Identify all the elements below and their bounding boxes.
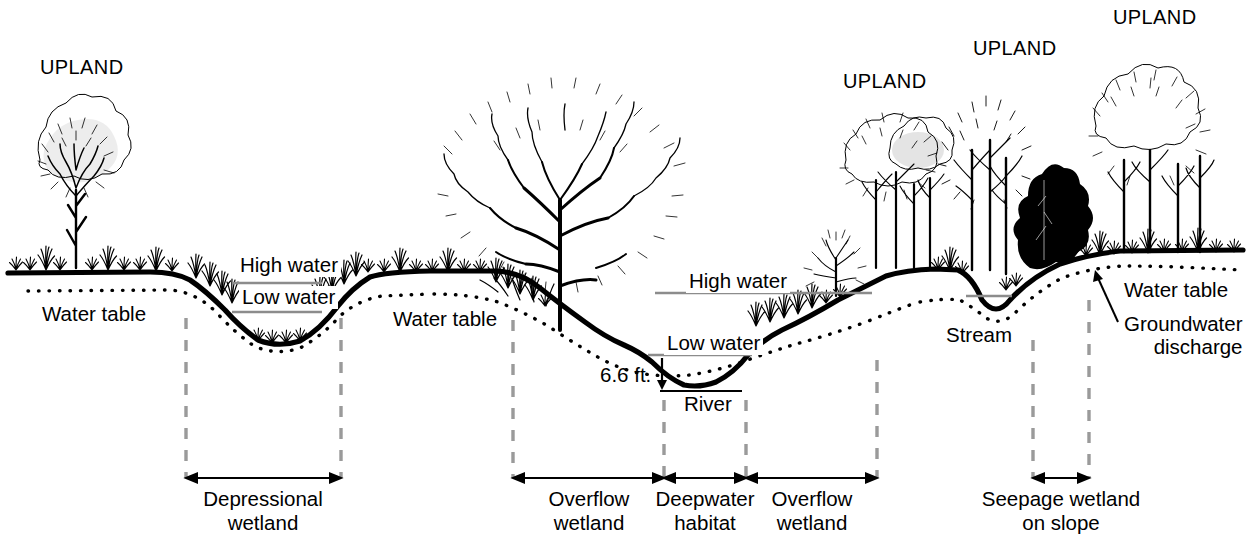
zone-span-arrows xyxy=(186,474,1089,483)
tree-icon-upland-cluster xyxy=(840,113,954,268)
double-headed-arrow-deepwater xyxy=(664,474,746,483)
zone-label-line-2: wetland xyxy=(163,511,363,535)
tree-icon-upland-left xyxy=(38,94,131,268)
zone-label-overflow-wetland-right: Overflow wetland xyxy=(742,487,882,535)
low-water-label-depression: Low water xyxy=(239,286,338,309)
low-water-label-river: Low water xyxy=(664,332,763,355)
tree-icon-upland-right xyxy=(1089,64,1214,252)
depth-label-6-6-ft: 6.6 ft. xyxy=(600,364,651,387)
zone-label-seepage-wetland-on-slope: Seepage wetland on slope xyxy=(941,487,1181,535)
groundwater-discharge-line-2: discharge xyxy=(1124,336,1243,359)
water-table-label-1: Water table xyxy=(42,303,146,326)
double-headed-arrow-depressional xyxy=(186,474,341,483)
zone-label-line-2: on slope xyxy=(941,511,1181,535)
upland-label-1: UPLAND xyxy=(40,56,124,78)
zone-label-line-1: Depressional xyxy=(163,487,363,511)
double-headed-arrow-overflow-right xyxy=(746,474,877,483)
upland-label-2: UPLAND xyxy=(843,70,927,92)
terrain-and-vegetation xyxy=(0,0,1251,556)
tree-icon-stream-bank xyxy=(938,96,1093,274)
high-water-label-river: High water xyxy=(686,270,790,293)
stream-label: Stream xyxy=(946,324,1012,347)
groundwater-discharge-line-1: Groundwater xyxy=(1124,313,1243,336)
double-headed-arrow-overflow-left xyxy=(513,474,664,483)
tree-icon-floodplain xyxy=(438,78,685,330)
groundwater-discharge-label: Groundwater discharge xyxy=(1124,313,1243,359)
grass-tuft-icon-left-upland xyxy=(10,246,179,271)
tree-icon-shrub-bank xyxy=(804,230,866,296)
zone-label-line-1: Seepage wetland xyxy=(941,487,1181,511)
groundwater-discharge-pointer-arrow xyxy=(1093,270,1118,322)
river-label: River xyxy=(684,393,732,416)
double-headed-arrow-seepage xyxy=(1033,474,1089,483)
zone-label-depressional-wetland: Depressional wetland xyxy=(163,487,363,535)
high-water-label-depression: High water xyxy=(237,254,341,277)
diagram-canvas: UPLAND UPLAND UPLAND UPLAND Water table … xyxy=(0,0,1251,556)
upland-label-3: UPLAND xyxy=(973,37,1057,59)
zone-label-line-1: Overflow xyxy=(742,487,882,511)
upland-label-4: UPLAND xyxy=(1113,6,1197,28)
zone-label-line-2: wetland xyxy=(742,511,882,535)
water-table-label-3: Water table xyxy=(1124,279,1228,302)
water-table-label-2: Water table xyxy=(393,308,497,331)
